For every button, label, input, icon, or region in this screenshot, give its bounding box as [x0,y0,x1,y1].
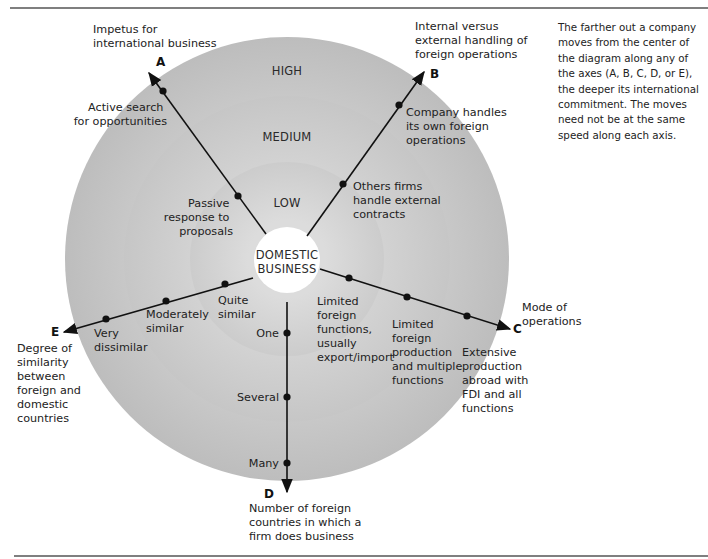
ring-label-medium: MEDIUM [263,130,312,144]
dot-a-1 [234,192,241,199]
dot-c-3 [463,312,470,319]
dot-e-2 [162,297,169,304]
axis-e-point-1: Quite similar [218,294,256,321]
dot-c-1 [345,274,352,281]
axis-b-point-2: Company handles its own foreign operatio… [406,106,510,147]
ring-label-high: HIGH [272,64,302,78]
dot-c-2 [403,293,410,300]
dot-d-3 [283,459,290,466]
dot-e-3 [102,315,109,322]
axis-c-letter: C [513,322,522,336]
dot-e-1 [221,280,228,287]
axis-b-title: Internal versus external handling of for… [415,20,531,61]
axis-d-title: Number of foreign countries in which a f… [249,502,365,543]
axis-d-point-3: Many [249,457,280,470]
axis-c-point-3: Extensive production abroad with FDI and… [462,346,532,415]
axis-b-letter: B [430,67,439,81]
axis-c-title: Mode of operations [522,301,582,328]
axis-a-letter: A [156,55,166,69]
axis-d-letter: D [264,487,274,501]
ring-label-low: LOW [273,196,300,210]
center-label-line2: BUSINESS [257,262,316,276]
dot-b-1 [339,180,346,187]
axis-e-title: Degree of similarity between foreign and… [17,342,85,425]
dot-a-2 [159,87,166,94]
explanation-note: The farther out a company moves from the… [558,20,708,143]
dot-b-2 [395,101,402,108]
dot-d-2 [283,393,290,400]
axis-d-point-2: Several [237,391,279,404]
axis-a-point-2: Active search for opportunities [74,101,167,128]
axis-e-letter: E [51,325,59,339]
axis-a-title: Impetus for international business [93,23,217,50]
center-label-line1: DOMESTIC [256,248,318,262]
dot-d-1 [283,329,290,336]
axis-d-point-1: One [256,327,279,340]
